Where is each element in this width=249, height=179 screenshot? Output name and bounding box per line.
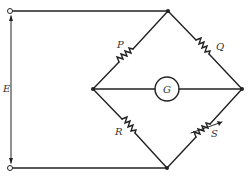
- label-e: E: [2, 83, 11, 94]
- label-p: P: [116, 39, 124, 50]
- wheatstone-bridge-diagram: P Q R S G E: [0, 0, 249, 179]
- resistor-p: [93, 11, 168, 89]
- emf-arrow-bottom-icon: [9, 158, 13, 164]
- resistor-r: [93, 89, 167, 168]
- left-node: [91, 87, 95, 91]
- circuit-svg: P Q R S G E: [0, 0, 249, 179]
- label-g: G: [163, 84, 171, 95]
- emf-arrow-top-icon: [9, 15, 13, 21]
- right-node: [240, 87, 244, 91]
- label-r: R: [114, 126, 123, 137]
- bottom-terminal: [8, 166, 13, 171]
- bottom-node: [165, 166, 169, 170]
- label-q: Q: [216, 41, 224, 52]
- top-terminal: [8, 9, 13, 14]
- resistor-s: [167, 89, 242, 168]
- resistor-q: [168, 11, 242, 89]
- label-s: S: [211, 128, 218, 139]
- top-node: [166, 9, 170, 13]
